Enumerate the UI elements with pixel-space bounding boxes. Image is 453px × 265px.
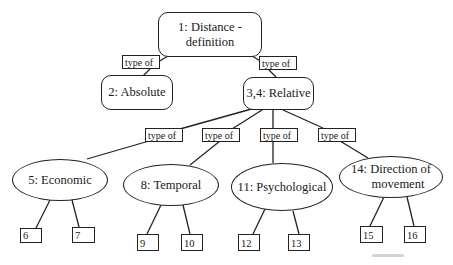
relation-label-absolute: type of — [122, 55, 160, 69]
relation-label-direction: type of — [318, 128, 356, 142]
leaf-13: 13 — [288, 234, 310, 251]
node-label-line1: 1: Distance - — [178, 20, 242, 35]
node-absolute: 2: Absolute — [101, 75, 173, 110]
node-label-line2: definition — [186, 35, 235, 50]
leaf-16: 16 — [404, 226, 426, 243]
node-temporal: 8: Temporal — [123, 164, 219, 206]
node-psychological: 11: Psychological — [231, 163, 333, 211]
leaf-10: 10 — [181, 234, 203, 251]
relation-label-temporal: type of — [202, 128, 240, 142]
concept-diagram: 1: Distance - definition type of type of… — [0, 0, 453, 265]
leaf-12: 12 — [238, 234, 260, 251]
relation-label-relative: type of — [259, 56, 297, 70]
node-label-line1: 14: Direction of — [351, 162, 431, 177]
node-direction-of-movement: 14: Direction of movement — [339, 156, 443, 198]
node-label-line2: movement — [358, 177, 425, 192]
relation-label-psychological: type of — [260, 128, 298, 142]
node-relative: 3,4: Relative — [243, 77, 314, 110]
leaf-7: 7 — [72, 227, 95, 243]
node-economic: 5: Economic — [12, 159, 108, 201]
relation-label-economic: type of — [145, 128, 183, 142]
leaf-9: 9 — [137, 234, 159, 251]
node-distance-definition: 1: Distance - definition — [158, 12, 262, 57]
scan-artifact — [372, 254, 404, 257]
leaf-15: 15 — [360, 226, 383, 243]
leaf-6: 6 — [20, 228, 42, 243]
